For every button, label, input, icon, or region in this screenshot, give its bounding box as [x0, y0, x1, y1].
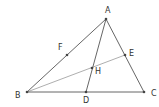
label-B: B	[15, 91, 21, 100]
segments	[27, 19, 144, 92]
point-H	[91, 67, 94, 70]
triangle-diagram: A B C D E F H	[0, 0, 159, 107]
segment-BE	[27, 55, 125, 92]
label-D: D	[83, 96, 89, 105]
point-E	[124, 54, 127, 57]
point-C	[143, 91, 146, 94]
point-D	[85, 91, 88, 94]
labels: A B C D E F H	[15, 6, 157, 105]
point-F	[66, 54, 69, 57]
point-A	[105, 18, 108, 21]
label-C: C	[151, 89, 157, 98]
label-H: H	[95, 67, 101, 76]
label-A: A	[105, 6, 111, 15]
segment-AD	[86, 19, 106, 92]
points	[26, 18, 146, 94]
point-B	[26, 91, 29, 94]
label-E: E	[129, 49, 134, 58]
label-F: F	[58, 43, 63, 52]
